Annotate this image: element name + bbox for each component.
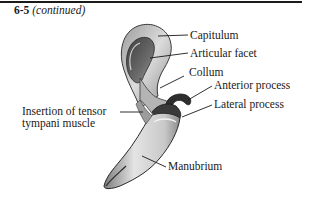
label-collum: Collum [189, 66, 224, 78]
label-anterior-process: Anterior process [214, 79, 290, 91]
label-lateral-process: Lateral process [214, 98, 284, 110]
label-manubrium: Manubrium [168, 160, 222, 172]
label-insertion-line1: Insertion of tensor [22, 105, 106, 117]
label-insertion-line2: tympani muscle [22, 117, 95, 129]
label-articular-facet: Articular facet [190, 47, 257, 59]
label-capitulum: Capitulum [190, 29, 239, 41]
manubrium-shape [104, 113, 180, 188]
